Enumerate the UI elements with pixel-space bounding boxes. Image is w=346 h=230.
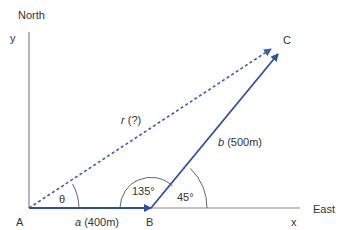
angle-45-label: 45°: [177, 191, 194, 203]
vector-b: [151, 54, 278, 208]
north-label: North: [18, 9, 45, 21]
vector-diagram: North y C East x A B θ 135° 45° a (400m)…: [0, 0, 346, 230]
point-c-label: C: [283, 34, 291, 46]
point-a-label: A: [16, 216, 24, 228]
vector-r-label: r (?): [121, 114, 141, 126]
vector-b-label: b (500m): [218, 136, 262, 148]
y-axis-label: y: [10, 32, 16, 44]
x-axis-label: x: [291, 216, 297, 228]
theta-label: θ: [59, 193, 65, 205]
angle-135-label: 135°: [132, 185, 155, 197]
vector-a-label: a (400m): [75, 216, 119, 228]
point-b-label: B: [146, 216, 153, 228]
theta-arc: [73, 184, 80, 208]
east-label: East: [313, 203, 335, 215]
